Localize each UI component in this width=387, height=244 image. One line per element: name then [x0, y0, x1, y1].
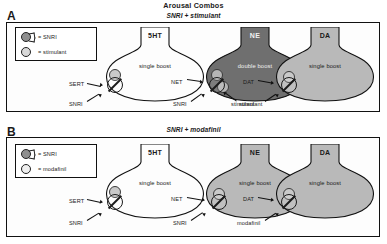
neuron-a-da-transporter-blocked-icon — [281, 77, 297, 93]
panel-a-subtitle: SNRI + stimulant — [0, 12, 387, 19]
callout-a-da-stimulant: stimulant — [239, 101, 262, 107]
leader-b-5ht-snri — [87, 213, 99, 221]
callout-a-net: NET — [171, 79, 183, 85]
legend-item-modafinil-label: = modafinil — [38, 166, 66, 172]
callout-a-ne-snri: SNRI — [173, 101, 187, 107]
neuron-a-ne-transporter-blocked-icon — [209, 77, 225, 93]
snri-glyph-icon — [20, 148, 34, 160]
panel-b: = SNRI = modafinil 5HT single boost SERT — [6, 137, 380, 237]
legend-item-stimulant: = stimulant — [20, 45, 66, 59]
neuron-a-da: DA single boost — [273, 27, 377, 105]
neuron-b-5ht: 5HT single boost — [103, 144, 207, 222]
callout-a-5ht-snri: SNRI — [69, 101, 83, 107]
callout-b-net: NET — [171, 196, 183, 202]
neuron-b-da: DA single boost — [273, 144, 377, 222]
snri-glyph-icon — [20, 31, 34, 43]
callout-b-da-modafinil: modafinil — [237, 220, 260, 226]
legend-item-stimulant-label: = stimulant — [38, 49, 66, 55]
panel-a: = SNRI = stimulant 5HT single boost SERT — [6, 22, 380, 112]
neuron-b-da-transporter-blocked-icon — [281, 194, 297, 210]
callout-a-sert: SERT — [69, 81, 84, 87]
figure-title: Arousal Combos — [0, 1, 387, 10]
stimulant-glyph-icon — [20, 46, 34, 58]
neuron-b-ne-transporter-blocked-icon — [211, 194, 227, 210]
neuron-b-5ht-transporter-blocked-icon — [107, 194, 123, 210]
neuron-a-5ht-name: 5HT — [103, 32, 207, 39]
neuron-a-5ht: 5HT single boost — [103, 27, 207, 105]
neuron-b-da-name: DA — [273, 149, 377, 156]
legend-item-modafinil: = modafinil — [20, 162, 66, 176]
arousal-combos-figure: Arousal Combos A SNRI + stimulant = SNRI… — [0, 0, 387, 244]
callout-b-dat: DAT — [243, 196, 254, 202]
leader-a-5ht-snri — [87, 94, 99, 102]
neuron-a-da-name: DA — [273, 32, 377, 39]
neuron-b-5ht-boost: single boost — [103, 180, 207, 186]
legend-item-snri-b-label: = SNRI — [38, 151, 57, 157]
neuron-b-da-boost: single boost — [273, 180, 377, 186]
neuron-a-5ht-boost: single boost — [103, 63, 207, 69]
legend-item-snri: = SNRI — [20, 30, 57, 44]
panel-b-subtitle: SNRI + modafinil — [0, 126, 387, 133]
neuron-a-5ht-transporter-blocked-icon — [107, 77, 123, 93]
panel-a-legend: = SNRI = stimulant — [15, 27, 97, 61]
neuron-b-5ht-name: 5HT — [103, 149, 207, 156]
callout-b-ne-snri: SNRI — [173, 220, 187, 226]
legend-item-snri-b: = SNRI — [20, 147, 57, 161]
neuron-a-da-boost: single boost — [273, 63, 377, 69]
arrow-a-net — [200, 80, 204, 84]
modafinil-glyph-icon — [20, 163, 34, 175]
callout-b-5ht-snri: SNRI — [69, 220, 83, 226]
panel-b-legend: = SNRI = modafinil — [15, 144, 97, 178]
legend-item-snri-label: = SNRI — [38, 34, 57, 40]
callout-b-sert: SERT — [69, 198, 84, 204]
callout-a-dat: DAT — [243, 79, 254, 85]
